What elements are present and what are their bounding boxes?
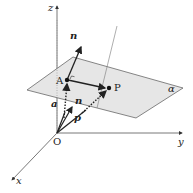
vector-a-label: a <box>51 98 57 109</box>
plane-alpha-label: α <box>168 83 175 94</box>
vector-plane-diagram: z y x O A P n n a p α <box>0 0 193 193</box>
point-A <box>65 78 69 82</box>
x-axis <box>12 133 57 180</box>
normal-n-label-top: n <box>70 30 77 41</box>
normal-n-label-bottom: n <box>75 95 82 106</box>
vector-p-label: p <box>74 112 81 123</box>
point-A-label: A <box>55 75 64 86</box>
origin-label: O <box>53 136 61 147</box>
point-P <box>107 86 111 90</box>
point-P-label: P <box>114 82 121 93</box>
z-axis-label: z <box>47 2 54 13</box>
x-axis-label: x <box>16 175 22 186</box>
y-axis-label: y <box>177 136 184 147</box>
